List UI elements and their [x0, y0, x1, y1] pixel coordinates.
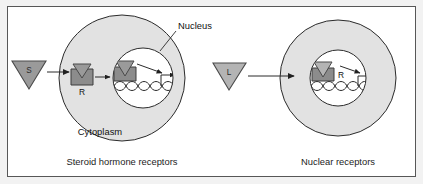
diagram-canvas: S R — [0, 0, 423, 184]
nucleus-label: Nucleus — [178, 20, 212, 31]
nuclear-receptor-dna-complex-right — [312, 62, 334, 81]
caption-nuclear: Nuclear receptors — [301, 156, 375, 167]
ligand-s-label: S — [26, 66, 32, 75]
cytoplasm-label: Cytoplasm — [78, 126, 122, 137]
nuclear-receptor-dna-complex-left — [114, 61, 136, 81]
ligand-l-group: L — [213, 63, 246, 90]
ligand-s-group: S — [12, 61, 46, 89]
receptor-label-left: R — [79, 87, 85, 97]
caption-steroid: Steroid hormone receptors — [67, 156, 178, 167]
receptor-label-right: R — [338, 70, 344, 80]
figure-root: S R — [0, 0, 423, 184]
steroid-panel: S R — [12, 15, 212, 167]
ligand-l-label: L — [227, 68, 232, 77]
nuclear-panel: L R — [213, 20, 396, 167]
